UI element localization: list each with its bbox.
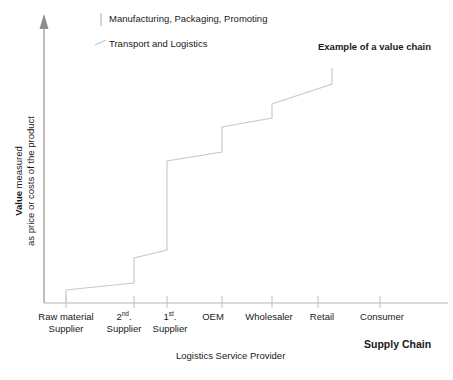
x-tick-label-oem: OEM (193, 311, 233, 323)
chart-title: Example of a value chain (318, 41, 431, 52)
y-axis-label-bold: Value (13, 191, 24, 216)
ordinal-period: . (129, 311, 132, 322)
legend-label-transport: Transport and Logistics (109, 38, 207, 49)
y-axis-label: Value measured as price or costs of the … (13, 94, 41, 269)
legend-label-manufacturing: Manufacturing, Packaging, Promoting (109, 13, 267, 24)
figure-canvas: Manufacturing, Packaging, Promoting Tran… (0, 0, 453, 380)
x-tick-label-wholesaler: Wholesaler (237, 311, 301, 323)
x-axis-title: Supply Chain (364, 339, 431, 350)
ordinal-suffix: nd (122, 310, 129, 317)
x-tick-label-line1: Wholesaler (237, 311, 301, 323)
x-tick-label-1st-supplier: 1st. Supplier (140, 311, 200, 335)
x-tick-label-consumer: Consumer (350, 311, 414, 323)
y-axis-label-rest: measured (13, 146, 24, 191)
y-axis-arrow-icon (40, 14, 49, 29)
legend-marker-transport-icon (95, 40, 106, 45)
x-axis-ticks (66, 296, 380, 308)
x-tick-label-line2: Supplier (140, 323, 200, 335)
x-tick-label-line1: OEM (193, 311, 233, 323)
y-axis-label-line2: as price or costs of the product (25, 94, 37, 269)
x-tick-label-line1: 1st. (140, 311, 200, 323)
ordinal-period: . (174, 311, 177, 322)
x-tick-label-line1: Consumer (350, 311, 414, 323)
x-tick-label-retail: Retail (300, 311, 344, 323)
x-tick-label-line1: Retail (300, 311, 344, 323)
logistics-service-provider-label: Logistics Service Provider (176, 350, 285, 361)
value-chain-step-line (66, 68, 332, 302)
